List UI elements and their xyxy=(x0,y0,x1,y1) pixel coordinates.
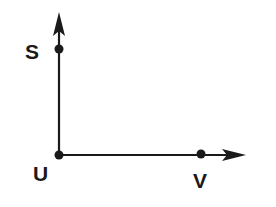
ray-us xyxy=(53,12,65,155)
point-v xyxy=(197,150,206,159)
label-s: S xyxy=(25,41,39,62)
point-s xyxy=(55,45,64,54)
label-u: U xyxy=(33,163,48,184)
label-v: V xyxy=(193,170,207,191)
ray-uv xyxy=(59,149,246,161)
point-u xyxy=(55,151,64,160)
